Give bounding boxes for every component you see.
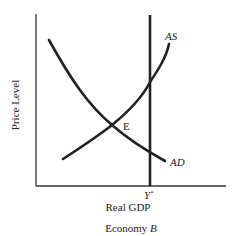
diagram-title-prefix: Economy	[105, 222, 150, 234]
equilibrium-point	[110, 123, 114, 127]
equilibrium-label: E	[123, 120, 130, 132]
y-axis-label: Price Level	[9, 80, 21, 130]
potential-output-label-sup: *	[150, 189, 154, 197]
economy-b-diagram: E AS AD Y* Real GDP Price Level Economy …	[0, 0, 237, 236]
diagram-title: Economy B	[105, 222, 157, 234]
ad-curve-label: AD	[169, 156, 185, 168]
as-curve	[63, 44, 169, 159]
x-axis-label: Real GDP	[106, 201, 151, 213]
ad-curve	[49, 40, 165, 161]
diagram-title-italic: B	[150, 222, 157, 234]
potential-output-label: Y*	[144, 189, 154, 201]
as-curve-label: AS	[164, 30, 178, 42]
